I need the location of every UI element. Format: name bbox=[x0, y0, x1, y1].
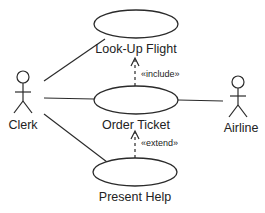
actor-clerk[interactable]: Clerk bbox=[8, 71, 38, 132]
actor-label: Airline bbox=[224, 121, 259, 135]
extend-stereotype-label: «extend» bbox=[141, 138, 178, 148]
include-dependency: «include» bbox=[131, 58, 180, 86]
use-case-label: Present Help bbox=[99, 190, 171, 204]
use-case-lookup-flight[interactable]: Look-Up Flight bbox=[94, 10, 178, 56]
stick-figure-icon bbox=[229, 76, 247, 117]
actor-airline[interactable]: Airline bbox=[224, 76, 259, 135]
stick-figure-icon bbox=[14, 71, 32, 113]
use-case-label: Order Ticket bbox=[102, 118, 171, 132]
use-case-order-ticket[interactable]: Order Ticket bbox=[94, 86, 178, 132]
actor-label: Clerk bbox=[8, 118, 38, 132]
association-clerk-order-ticket bbox=[44, 98, 94, 99]
extend-dependency: «extend» bbox=[131, 131, 178, 158]
use-case-ellipse bbox=[94, 10, 178, 38]
use-case-ellipse bbox=[94, 86, 178, 114]
use-case-diagram: Look-Up Flight Order Ticket Present Help… bbox=[0, 0, 265, 213]
association-clerk-present-help bbox=[44, 114, 107, 162]
use-case-label: Look-Up Flight bbox=[95, 42, 177, 56]
association-order-ticket-airline bbox=[178, 100, 223, 101]
use-case-present-help[interactable]: Present Help bbox=[93, 158, 177, 204]
use-case-ellipse bbox=[93, 158, 177, 186]
include-stereotype-label: «include» bbox=[141, 69, 180, 79]
